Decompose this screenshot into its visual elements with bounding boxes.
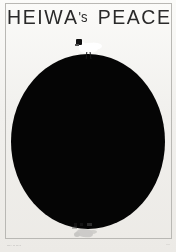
dove-reflection <box>70 226 104 242</box>
credit-text-right: ···· <box>166 245 170 248</box>
black-circle <box>11 54 165 229</box>
title-letter: C <box>141 6 155 27</box>
title-letter: A <box>127 6 140 27</box>
dove-leg <box>86 52 88 59</box>
poster-title: H E I W A 's P E A C E <box>7 6 170 28</box>
title-possessive: 's <box>79 10 88 24</box>
white-dove-icon <box>76 39 102 59</box>
reflection-shadow <box>72 226 77 229</box>
title-letter: P <box>98 6 111 27</box>
title-letter: I <box>37 6 42 27</box>
title-letter: E <box>23 6 36 27</box>
dove-legs <box>85 52 93 60</box>
reflection-head <box>74 232 80 237</box>
poster-artwork: H E I W A 's P E A C E ·· <box>0 0 176 252</box>
dove-beak <box>75 44 79 46</box>
dove-leg <box>90 52 92 59</box>
title-letter: H <box>7 6 21 27</box>
title-letter: A <box>64 6 77 27</box>
title-letter: E <box>112 6 125 27</box>
title-letter: E <box>157 6 170 27</box>
title-letter: W <box>44 6 62 27</box>
credit-text-left: ···· ·· ···· <box>7 245 21 249</box>
